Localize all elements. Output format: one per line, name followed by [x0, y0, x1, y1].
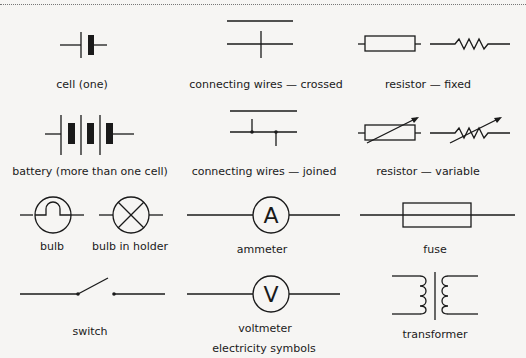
cell-label: cell (one) — [56, 78, 107, 91]
battery-label: battery (more than one cell) — [12, 165, 168, 178]
bulb-symbol — [18, 195, 88, 235]
resistor-variable-symbol — [355, 115, 520, 150]
voltmeter-glyph: V — [263, 282, 278, 307]
voltmeter-label: voltmeter — [238, 322, 292, 335]
ammeter-label: ammeter — [237, 243, 288, 256]
resistor-fixed-label: resistor — fixed — [385, 78, 471, 91]
switch-label: switch — [72, 325, 107, 338]
bulb-label: bulb — [40, 240, 64, 253]
fuse-label: fuse — [423, 243, 446, 256]
bulb-in-holder-label: bulb in holder — [92, 240, 168, 253]
bulb-in-holder-symbol — [97, 195, 167, 235]
wires-crossed-label: connecting wires — crossed — [189, 78, 342, 91]
fuse-symbol — [355, 195, 525, 235]
cell-symbol — [55, 30, 115, 65]
wires-joined-label: connecting wires — joined — [192, 165, 337, 178]
transformer-symbol — [390, 272, 490, 322]
battery-symbol — [40, 110, 140, 160]
voltmeter-symbol: V — [185, 274, 345, 314]
ammeter-glyph: A — [263, 203, 278, 228]
wires-crossed-symbol — [225, 18, 300, 63]
transformer-label: transformer — [402, 328, 467, 341]
ammeter-symbol: A — [185, 195, 345, 235]
resistor-fixed-symbol — [355, 30, 520, 55]
page-top-dotted-rule — [0, 4, 526, 5]
resistor-variable-label: resistor — variable — [376, 165, 480, 178]
wires-joined-symbol — [225, 105, 305, 150]
switch-symbol — [18, 278, 168, 303]
figure-caption: electricity symbols — [212, 342, 315, 355]
